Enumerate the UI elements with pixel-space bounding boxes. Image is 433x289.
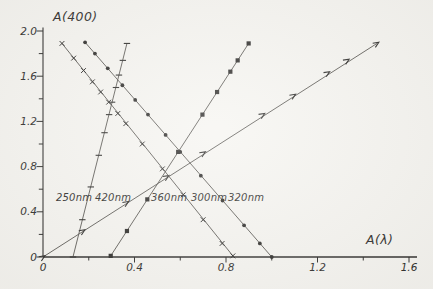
- svg-text:0: 0: [30, 251, 37, 263]
- series-label-320nm: 320nm: [228, 193, 264, 203]
- svg-text:0.4: 0.4: [20, 205, 37, 217]
- x-axis-title: A(λ): [366, 234, 393, 247]
- svg-text:1.2: 1.2: [20, 115, 37, 127]
- svg-text:0.8: 0.8: [218, 261, 235, 273]
- svg-text:1.6: 1.6: [20, 70, 37, 82]
- series-label-300nm: 300nm: [191, 193, 227, 203]
- svg-text:1.2: 1.2: [309, 261, 326, 273]
- svg-text:0.8: 0.8: [20, 160, 37, 172]
- svg-text:2.0: 2.0: [20, 25, 37, 37]
- absorbance-correlation-figure: 00.40.81.21.600.40.81.21.62.0 A(400) A(λ…: [0, 0, 433, 289]
- y-axis-title: A(400): [53, 11, 98, 24]
- series-label-360nm: 360nm: [151, 193, 187, 203]
- svg-text:1.6: 1.6: [401, 261, 418, 273]
- series-label-420nm: 420nm: [95, 193, 131, 203]
- series-label-250nm: 250nm: [56, 193, 92, 203]
- svg-text:0.4: 0.4: [126, 261, 143, 273]
- svg-text:0: 0: [40, 261, 47, 273]
